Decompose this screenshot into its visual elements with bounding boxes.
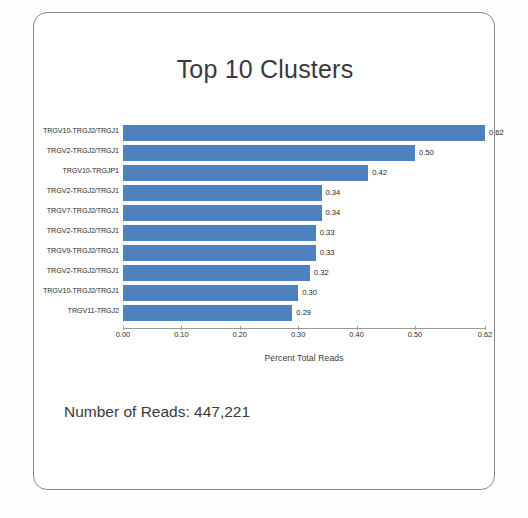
slide-card: Top 10 Clusters TRGV10-TRGJ2/TRGJ10.62TR… <box>33 12 495 490</box>
x-axis-title: Percent Total Reads <box>123 353 485 363</box>
bar <box>123 285 298 301</box>
bar-chart-plot-area: TRGV10-TRGJ2/TRGJ10.62TRGV2-TRGJ2/TRGJ10… <box>34 123 496 388</box>
screenshot-page: Top 10 Clusters TRGV10-TRGJ2/TRGJ10.62TR… <box>0 0 528 518</box>
bar-row: TRGV2-TRGJ2/TRGJ10.33 <box>34 223 496 243</box>
x-axis-tick-label: 0.20 <box>233 330 247 339</box>
x-axis-line <box>123 328 485 329</box>
x-axis-tick-labels: 0.000.100.200.300.400.500.62 <box>123 330 485 344</box>
bar-track: 0.34 <box>123 204 485 222</box>
reads-count-note: Number of Reads: 447,221 <box>64 403 250 421</box>
bar-row: TRGV2-TRGJ2/TRGJ10.32 <box>34 263 496 283</box>
bar-category-label: TRGV2-TRGJ2/TRGJ1 <box>34 266 119 275</box>
bar-category-label: TRGV2-TRGJ2/TRGJ1 <box>34 146 119 155</box>
bar-row: TRGV11-TRGJ20.29 <box>34 303 496 323</box>
bar-track: 0.29 <box>123 304 485 322</box>
bar-track: 0.34 <box>123 184 485 202</box>
bar-track: 0.42 <box>123 164 485 182</box>
bar-row: TRGV2-TRGJ2/TRGJ10.34 <box>34 183 496 203</box>
bar-row: TRGV2-TRGJ2/TRGJ10.50 <box>34 143 496 163</box>
x-axis-tick-label: 0.50 <box>408 330 422 339</box>
bar <box>123 245 316 261</box>
bar-row: TRGV10-TRGJ2/TRGJ10.30 <box>34 283 496 303</box>
x-axis-tick-label: 0.62 <box>478 330 492 339</box>
bar-track: 0.33 <box>123 224 485 242</box>
x-axis-tick-label: 0.00 <box>116 330 130 339</box>
bar-category-label: TRGV2-TRGJ2/TRGJ1 <box>34 226 119 235</box>
bar <box>123 185 322 201</box>
bar-category-label: TRGV7-TRGJ2/TRGJ1 <box>34 206 119 215</box>
bar-value-label: 0.34 <box>326 188 341 197</box>
bar-category-label: TRGV10-TRGJ2/TRGJ1 <box>34 286 119 295</box>
bar-value-label: 0.33 <box>320 248 335 257</box>
bar-value-label: 0.30 <box>302 288 317 297</box>
x-axis-tick-label: 0.40 <box>349 330 363 339</box>
bar-track: 0.50 <box>123 144 485 162</box>
bar <box>123 125 485 141</box>
bar-row: TRGV9-TRGJ2/TRGJ10.33 <box>34 243 496 263</box>
x-axis-tick-label: 0.10 <box>174 330 188 339</box>
bar-category-label: TRGV9-TRGJ2/TRGJ1 <box>34 246 119 255</box>
bar-row: TRGV10-TRGJP10.42 <box>34 163 496 183</box>
chart-title: Top 10 Clusters <box>34 55 496 84</box>
bar-track: 0.30 <box>123 284 485 302</box>
bar-track: 0.32 <box>123 264 485 282</box>
bar-category-label: TRGV10-TRGJP1 <box>34 166 119 175</box>
bar-value-label: 0.32 <box>314 268 329 277</box>
bar <box>123 305 292 321</box>
bar-value-label: 0.34 <box>326 208 341 217</box>
bar-track: 0.62 <box>123 124 485 142</box>
bar-category-label: TRGV11-TRGJ2 <box>34 306 119 315</box>
bar <box>123 225 316 241</box>
bar <box>123 145 415 161</box>
bar-category-label: TRGV2-TRGJ2/TRGJ1 <box>34 186 119 195</box>
bar-value-label: 0.29 <box>296 308 311 317</box>
bar-row: TRGV7-TRGJ2/TRGJ10.34 <box>34 203 496 223</box>
bar <box>123 265 310 281</box>
bar <box>123 165 368 181</box>
bar-category-label: TRGV10-TRGJ2/TRGJ1 <box>34 126 119 135</box>
x-axis-tick-label: 0.30 <box>291 330 305 339</box>
bar-value-label: 0.33 <box>320 228 335 237</box>
bar-value-label: 0.62 <box>489 128 504 137</box>
bar-track: 0.33 <box>123 244 485 262</box>
bar-value-label: 0.50 <box>419 148 434 157</box>
bar-row: TRGV10-TRGJ2/TRGJ10.62 <box>34 123 496 143</box>
bar-value-label: 0.42 <box>372 168 387 177</box>
bar <box>123 205 322 221</box>
